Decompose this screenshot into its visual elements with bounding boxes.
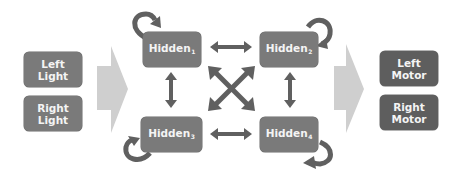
hidden-node-3: Hidden3 (141, 117, 202, 152)
input-node-right-light: Right Light (24, 96, 82, 131)
node-label-line1: Right (393, 101, 425, 113)
hidden3-hidden4-arrow (210, 128, 252, 140)
node-label: Hidden3 (148, 127, 195, 143)
hidden2-hidden4-arrow (284, 72, 296, 108)
hidden1-hidden2-arrow (210, 41, 252, 53)
output-node-right-motor: Right Motor (380, 95, 438, 130)
node-label-line2: Motor (391, 113, 426, 125)
node-label: Hidden2 (266, 42, 313, 58)
node-label: Hidden4 (266, 127, 313, 143)
node-label-line1: Left (41, 58, 64, 70)
input-to-hidden-arrow (97, 46, 128, 133)
node-label-line2: Light (38, 70, 68, 82)
hidden-node-1: Hidden1 (143, 32, 201, 67)
diagonal-cross-arrows (215, 72, 248, 105)
node-label-line2: Motor (391, 69, 426, 81)
node-label-line2: Light (38, 114, 68, 126)
node-label-line1: Left (397, 57, 420, 69)
node-label: Hidden1 (149, 42, 196, 58)
output-node-left-motor: Left Motor (380, 51, 438, 86)
hidden-node-2: Hidden2 (260, 32, 318, 67)
hidden-node-4: Hidden4 (260, 117, 318, 152)
input-node-left-light: Left Light (24, 52, 82, 87)
hidden-to-output-arrow (334, 44, 364, 133)
connections-layer (0, 0, 459, 178)
hidden1-hidden3-arrow (165, 72, 177, 108)
node-label-line1: Right (37, 102, 69, 114)
